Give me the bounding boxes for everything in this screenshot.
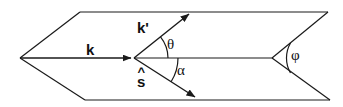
label-vector-k-prime: k' (137, 20, 149, 35)
s-hat-glyph-wrapper: ^ s (137, 74, 145, 89)
label-vector-s-hat: ^ s (137, 74, 145, 89)
label-angle-alpha: α (177, 63, 185, 78)
envelope-edge-upper-right (272, 12, 328, 58)
label-angle-theta: θ (167, 37, 174, 52)
envelope-edge-lower-left (20, 58, 85, 100)
envelope-edge-upper-left (20, 12, 80, 58)
label-vector-k: k (86, 42, 94, 57)
envelope-edge-lower-right (272, 58, 330, 100)
circumflex-accent-icon: ^ (137, 65, 145, 78)
scattering-geometry-diagram: k k' ^ s θ α φ (0, 0, 343, 107)
label-angle-phi: φ (291, 48, 300, 63)
